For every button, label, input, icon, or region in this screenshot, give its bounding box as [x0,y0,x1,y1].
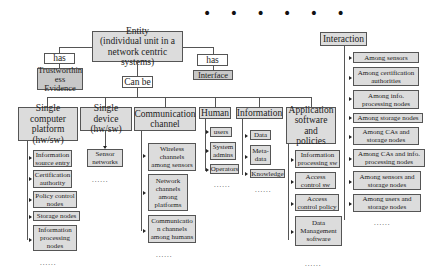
connector [242,119,243,175]
connector [141,131,142,231]
connector [344,46,345,220]
more-ellipsis: ...... [214,181,231,189]
entity-box: Entity (individual unit in a network cen… [92,31,183,62]
child-operators: Operators [210,164,239,174]
arrow-icon [349,180,352,184]
child-information-processing-nodes: Information processing nodes [33,225,77,251]
category-information: Information [236,107,283,119]
interaction-box: Interaction [320,32,367,46]
arrow-icon [349,157,352,161]
child-knowledge: Knowledge [250,169,285,178]
connector [165,97,166,107]
arrow-icon [29,177,32,181]
connector [259,97,260,107]
connector [183,47,213,48]
arrow-icon [349,76,352,80]
category-application-software: Application software and policies [286,107,336,144]
interaction-among-certification-authorities: Among certification authorities [353,67,419,86]
child-system-admins: System admins [210,142,236,160]
child-data-management-software: Data Management software [295,216,342,246]
connector [137,62,138,76]
more-ellipsis: ...... [156,251,173,259]
arrow-icon [29,215,32,219]
arrow-icon [291,158,294,162]
more-ellipsis: ...... [305,260,322,268]
more-ellipsis: ...... [374,219,391,227]
interaction-among-storage-nodes: Among storage nodes [353,113,423,123]
arrow-icon [143,229,146,233]
category-single-device: Single device (hw/sw) [80,107,132,131]
connector [47,97,311,98]
interaction-among-cas-and-info-processing: Among CAs and info. processing nodes [353,149,425,167]
arrow-icon [349,116,352,120]
interaction-among-info-processing-nodes: Among info. processing nodes [353,90,419,109]
ellipsis-dots: • • • • • • [203,8,352,18]
arrow-icon [29,156,32,160]
connector [213,47,214,54]
arrow-icon [206,130,209,134]
arrow-icon [245,134,248,138]
connector [137,88,138,97]
child-access-control-policy: Access control policy [295,194,339,211]
child-wireless-channels: Wireless channels among sensors [148,143,196,171]
connector [288,144,289,240]
connector [105,131,106,147]
child-sensor-networks: Sensor networks [87,149,123,167]
child-storage-nodes: Storage nodes [33,211,80,221]
can-be-label: Can be [122,76,153,88]
interaction-among-users-and-storage: Among users and storage nodes [353,194,421,212]
child-users: users [210,127,232,137]
more-ellipsis: ...... [92,176,109,184]
arrow-icon [206,149,209,153]
child-meta-data: Meta- data [250,145,271,165]
arrow-icon [245,155,248,159]
arrow-icon [143,191,146,195]
connector [59,47,92,48]
category-single-computer-platform: Single computer platform (hw/sw) [18,107,78,141]
has-label-left: has [44,53,75,64]
arrow-icon [245,172,248,176]
child-information-source-entry: Information source entry [33,150,72,167]
child-information-processing-sw: Information processing sw [295,150,340,168]
category-communication-channel: Communication channel [134,107,196,131]
interaction-among-sensors-and-storage: Among sensors and storage nodes [353,171,421,190]
interface-box: Interface [193,70,233,80]
child-certification-authority: Certification authority [33,170,72,188]
connector [215,97,216,107]
arrow-icon [29,198,32,202]
interaction-among-sensors: Among sensors [353,52,419,63]
arrow-icon [349,202,352,206]
child-network-channels: Network channels among platforms [148,174,188,211]
more-ellipsis: ...... [40,259,57,267]
arrow-icon [349,97,352,101]
category-human: Human [199,107,231,119]
child-access-control-sw: Access control sw [295,172,336,189]
arrow-icon [349,56,352,60]
child-data: Data [250,130,271,140]
connector [205,119,206,171]
more-ellipsis: ...... [255,186,272,194]
arrow-icon [349,135,352,139]
arrow-icon [291,180,294,184]
arrow-icon [29,238,32,242]
arrow-icon [291,230,294,234]
arrow-icon [206,168,209,172]
trustworthiness-evidence-box: Trustworthin ess Evidence [37,68,83,90]
connector [27,141,28,240]
arrow-icon [143,154,146,158]
child-policy-control-nodes: Policy control nodes [33,191,77,208]
child-communication-channels-humans: Communicatio n channels among humans [148,215,196,243]
arrow-icon [291,202,294,206]
has-label-right: has [197,54,228,66]
interaction-among-cas-and-storage-nodes: Among CAs and storage nodes [353,127,419,145]
